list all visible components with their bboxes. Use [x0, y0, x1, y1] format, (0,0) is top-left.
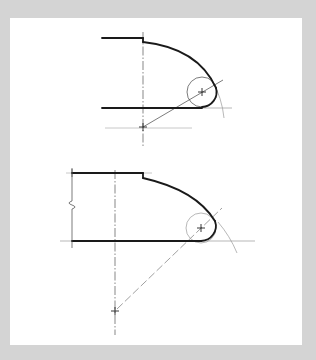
top-arc-center-mark — [139, 123, 147, 131]
bottom-radius-arc-trace — [218, 222, 237, 253]
break-symbol-icon — [69, 201, 75, 209]
top-object-outline — [102, 38, 217, 108]
top-fillet-center-mark — [198, 88, 206, 96]
bottom-object-outline — [72, 168, 216, 248]
bottom-construction-line — [117, 208, 222, 309]
bottom-view — [60, 168, 255, 335]
top-view — [102, 32, 232, 148]
technical-drawing — [0, 0, 316, 360]
